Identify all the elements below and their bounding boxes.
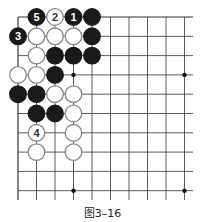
star-point — [71, 73, 75, 77]
black-stone — [84, 9, 101, 26]
move-number: 1 — [70, 11, 76, 23]
white-stone — [65, 105, 82, 122]
move-number: 4 — [33, 127, 40, 139]
star-point — [182, 189, 186, 193]
move-number: 3 — [15, 30, 21, 42]
move-number: 2 — [52, 11, 58, 23]
black-stone — [10, 86, 27, 103]
white-stone — [28, 144, 45, 161]
black-stone — [84, 28, 101, 45]
white-stone — [47, 28, 64, 45]
white-stone — [65, 125, 82, 142]
black-stone — [47, 47, 64, 64]
figure-caption: 图3–16 — [0, 204, 205, 220]
black-stone — [28, 105, 45, 122]
white-stone — [10, 67, 27, 84]
white-stone — [47, 86, 64, 103]
white-stone — [65, 86, 82, 103]
white-stone — [28, 67, 45, 84]
black-stone — [65, 47, 82, 64]
white-stone — [65, 28, 82, 45]
white-stone — [28, 47, 45, 64]
go-board: 52134 — [0, 0, 205, 205]
star-point — [71, 189, 75, 193]
move-number: 5 — [33, 11, 39, 23]
star-point — [182, 73, 186, 77]
black-stone — [28, 86, 45, 103]
white-stone — [65, 144, 82, 161]
black-stone — [47, 67, 64, 84]
white-stone — [28, 28, 45, 45]
black-stone — [47, 105, 64, 122]
black-stone — [84, 47, 101, 64]
